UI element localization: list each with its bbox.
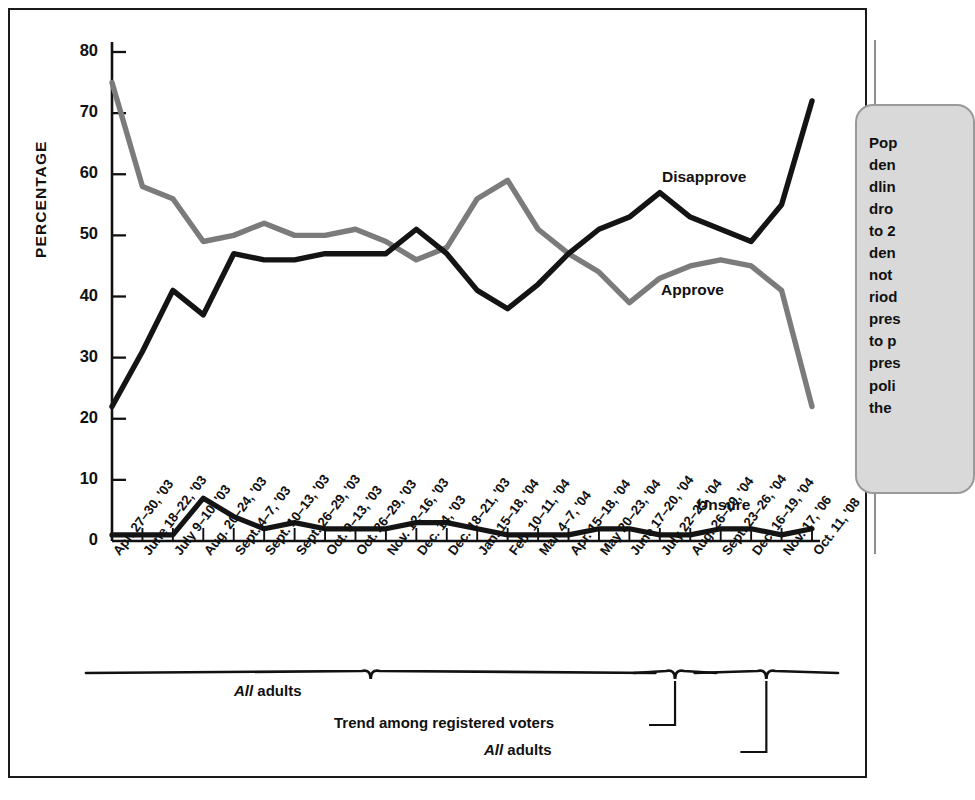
y-tick-label: 60 bbox=[64, 163, 98, 182]
y-tick-label: 50 bbox=[64, 224, 98, 243]
callout-stem-bottom bbox=[874, 492, 876, 554]
callout-text: Pop den dlin dro to 2 den not riod pres … bbox=[869, 132, 973, 419]
series-lines-group bbox=[112, 83, 812, 535]
leader-all-adults-2 bbox=[740, 681, 766, 752]
bracket-label-all-adults-2-rest: adults bbox=[503, 741, 551, 758]
series-line-disapprove bbox=[112, 101, 812, 407]
bracket-group bbox=[86, 671, 838, 752]
callout-box: Pop den dlin dro to 2 den not riod pres … bbox=[855, 104, 975, 494]
leader-registered-voters bbox=[649, 681, 675, 725]
bracket-label-registered-voters: Trend among registered voters bbox=[334, 714, 554, 731]
y-tick-label: 80 bbox=[64, 41, 98, 60]
series-label-disapprove: Disapprove bbox=[662, 168, 746, 186]
bracket-all-adults-1 bbox=[86, 671, 655, 679]
bracket-label-all-adults-1-italic: All bbox=[234, 682, 253, 699]
y-axis-title: PERCENTAGE bbox=[32, 236, 50, 258]
y-tick-label: 20 bbox=[64, 408, 98, 427]
y-tick-label: 10 bbox=[64, 469, 98, 488]
bracket-label-all-adults-2: All adults bbox=[484, 741, 552, 758]
bracket-label-all-adults-1: All adults bbox=[234, 682, 302, 699]
bracket-all-adults-2 bbox=[695, 671, 838, 679]
bracket-label-all-adults-1-rest: adults bbox=[253, 682, 301, 699]
series-label-approve: Approve bbox=[661, 281, 724, 299]
y-tick-label: 0 bbox=[64, 530, 98, 549]
y-tick-label: 40 bbox=[64, 286, 98, 305]
series-line-approve bbox=[112, 83, 812, 407]
callout-stem-top bbox=[874, 40, 876, 106]
series-label-unsure: Unsure bbox=[697, 496, 750, 514]
y-tick-label: 30 bbox=[64, 347, 98, 366]
bracket-label-all-adults-2-italic: All bbox=[484, 741, 503, 758]
y-tick-label: 70 bbox=[64, 102, 98, 121]
